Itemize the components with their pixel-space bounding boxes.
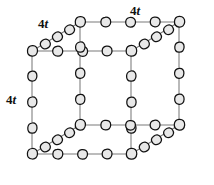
atom-edge [76, 94, 85, 104]
atom-edge [53, 46, 63, 56]
atom-edge [138, 37, 151, 50]
atom-edge [175, 94, 184, 104]
atom-corner [126, 148, 136, 159]
atom-corner [75, 119, 85, 130]
atom-edge [150, 17, 160, 27]
atom-edge [138, 140, 151, 153]
atom-edge [127, 97, 136, 107]
atom-edge [101, 17, 111, 27]
atom-edge [76, 42, 85, 52]
atom-edge [127, 71, 136, 81]
atom-edge [39, 140, 52, 153]
atom-corner [126, 45, 137, 56]
atom-edge [150, 120, 160, 130]
dimension-label-top-left-symbol: t [45, 16, 49, 31]
dimension-label-left: 4t [6, 93, 16, 106]
atom-edge [76, 68, 85, 78]
dimension-label-top-right: 4t [130, 4, 140, 17]
atom-edge [28, 71, 37, 81]
atom-edge [102, 149, 112, 159]
atom-edge [28, 97, 37, 107]
dimension-label-left-symbol: t [13, 92, 17, 107]
atom-edge [175, 42, 184, 52]
atom-edge [101, 120, 111, 130]
dimension-label-top-left: 4t [38, 17, 48, 30]
atom-corner [75, 17, 85, 28]
atom-edge [53, 149, 63, 159]
atom-edge [39, 37, 52, 50]
node-group [27, 16, 184, 159]
figure-root: 4t 4t 4t [0, 0, 214, 185]
atom-corner [174, 16, 184, 27]
atom-corner [27, 46, 37, 57]
dimension-label-top-right-symbol: t [137, 3, 141, 18]
atom-corner [174, 119, 184, 130]
atom-edge [28, 123, 37, 133]
atom-edge [78, 150, 88, 160]
atom-corner [27, 148, 37, 159]
atom-edge [175, 68, 184, 78]
atom-edge [102, 46, 112, 56]
lattice-diagram [0, 0, 214, 185]
atom-edge [126, 17, 136, 27]
atom-edge [126, 121, 136, 131]
